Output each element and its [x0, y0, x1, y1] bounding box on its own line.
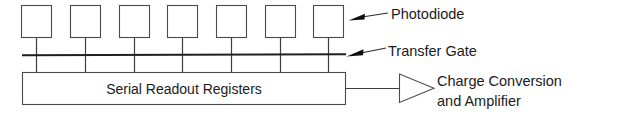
photodiode-box[interactable]: [266, 6, 296, 38]
sensor-architecture-diagram: Serial Readout Registers Photodiode Tran…: [0, 0, 619, 117]
transfer-gate-arrow-icon: [347, 49, 364, 56]
charge-conversion-callout: Charge Conversion and Amplifier: [437, 73, 562, 109]
transfer-gate-callout: Transfer Gate: [347, 43, 477, 59]
transfer-gate-leader-line: [361, 48, 386, 53]
photodiode-box[interactable]: [217, 6, 247, 38]
transfer-gate-label: Transfer Gate: [388, 43, 477, 59]
photodiode-box[interactable]: [120, 6, 150, 38]
serial-readout-register[interactable]: Serial Readout Registers: [23, 73, 346, 105]
transfer-gate-bus[interactable]: [22, 54, 346, 55]
photodiode-leader-line: [362, 13, 388, 17]
photodiode-array: [22, 6, 344, 38]
photodiode-arrow-icon: [349, 14, 366, 21]
charge-conversion-label-line1: Charge Conversion: [437, 73, 562, 89]
photodiode-box[interactable]: [168, 6, 198, 38]
serial-register-label: Serial Readout Registers: [106, 81, 262, 97]
triangle-amplifier-icon[interactable]: [400, 74, 435, 103]
photodiode-callout: Photodiode: [349, 6, 465, 22]
photodiode-box[interactable]: [71, 6, 101, 38]
photodiode-box[interactable]: [314, 6, 344, 38]
photodiode-label: Photodiode: [391, 6, 464, 22]
diagram-canvas: Serial Readout Registers Photodiode Tran…: [0, 0, 619, 117]
photodiode-box[interactable]: [22, 6, 52, 38]
charge-conversion-label-line2: and Amplifier: [437, 93, 521, 109]
